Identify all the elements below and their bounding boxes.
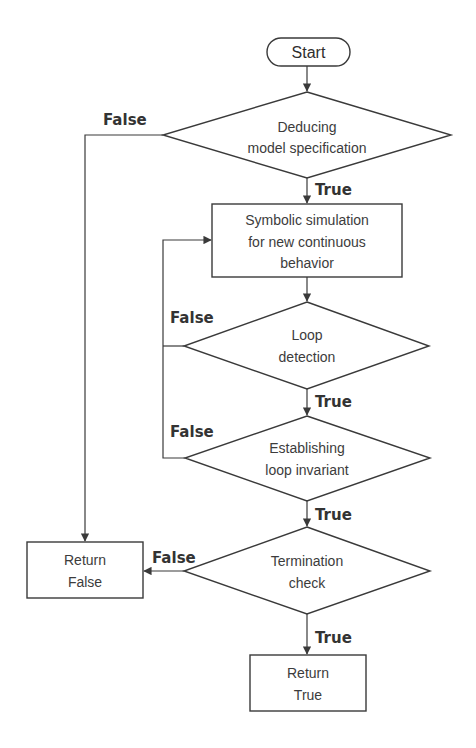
return-false-label-line2: False: [68, 574, 102, 590]
loop-detect-label-line2: detection: [279, 349, 336, 365]
simulate-label-line3: behavior: [280, 255, 334, 271]
node-termination: Termination check: [184, 527, 430, 614]
decision-shape: [184, 302, 429, 389]
return-true-label-line2: True: [294, 687, 322, 703]
label-termination-true: True: [315, 629, 352, 647]
label-loop-detect-false: False: [170, 309, 214, 327]
label-deduce-true: True: [315, 181, 352, 199]
edge-deduce-to-return-false: [85, 135, 163, 541]
simulate-label-line1: Symbolic simulation: [245, 212, 369, 228]
return-false-label-line1: Return: [64, 552, 106, 568]
node-invariant: Establishing loop invariant: [185, 416, 430, 501]
decision-shape: [184, 527, 430, 614]
label-invariant-false: False: [170, 423, 214, 441]
decision-shape: [185, 416, 430, 501]
decision-shape: [163, 92, 451, 178]
label-deduce-false: False: [103, 111, 147, 129]
return-true-label-line1: Return: [287, 665, 329, 681]
node-loop-detect: Loop detection: [184, 302, 429, 389]
label-invariant-true: True: [315, 506, 352, 524]
loop-detect-label-line1: Loop: [291, 327, 322, 343]
invariant-label-line1: Establishing: [269, 440, 345, 456]
label-termination-false: False: [152, 549, 196, 567]
start-label: Start: [292, 44, 326, 61]
node-start: Start: [267, 38, 350, 66]
termination-label-line1: Termination: [271, 553, 343, 569]
simulate-label-line2: for new continuous: [248, 234, 366, 250]
flowchart-canvas: Start Deducing model specification Symbo…: [0, 0, 476, 748]
node-return-false: Return False: [27, 542, 143, 598]
deduce-label-line1: Deducing: [277, 119, 336, 135]
node-deduce: Deducing model specification: [163, 92, 451, 178]
node-return-true: Return True: [250, 655, 366, 711]
deduce-label-line2: model specification: [247, 140, 366, 156]
invariant-label-line2: loop invariant: [265, 462, 348, 478]
label-loop-detect-true: True: [315, 393, 352, 411]
termination-label-line2: check: [289, 575, 327, 591]
node-simulate: Symbolic simulation for new continuous b…: [212, 204, 402, 277]
